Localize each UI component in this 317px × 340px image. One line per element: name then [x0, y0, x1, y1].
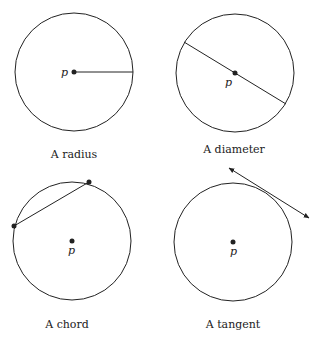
center-label: p — [225, 76, 232, 89]
tangent-line — [229, 168, 309, 218]
center-point — [233, 71, 238, 76]
caption: A chord — [44, 318, 89, 331]
center-label: p — [230, 245, 237, 258]
center-point — [72, 70, 77, 75]
chord-figure: p A chord — [12, 180, 132, 332]
center-point — [70, 239, 75, 244]
chord-endpoint — [87, 180, 92, 185]
center-point — [231, 240, 236, 245]
center-label: p — [68, 244, 75, 257]
chord-line — [14, 182, 89, 226]
center-label: p — [61, 66, 68, 79]
caption: A tangent — [205, 318, 261, 331]
circle-terms-diagram: p A radius p A diameter p A chord p A ta… — [0, 0, 317, 340]
caption: A diameter — [202, 143, 265, 156]
radius-figure: p A radius — [15, 13, 133, 161]
caption: A radius — [50, 148, 98, 161]
diameter-figure: p A diameter — [176, 14, 294, 156]
chord-endpoint — [12, 224, 17, 229]
tangent-figure: p A tangent — [174, 168, 309, 331]
